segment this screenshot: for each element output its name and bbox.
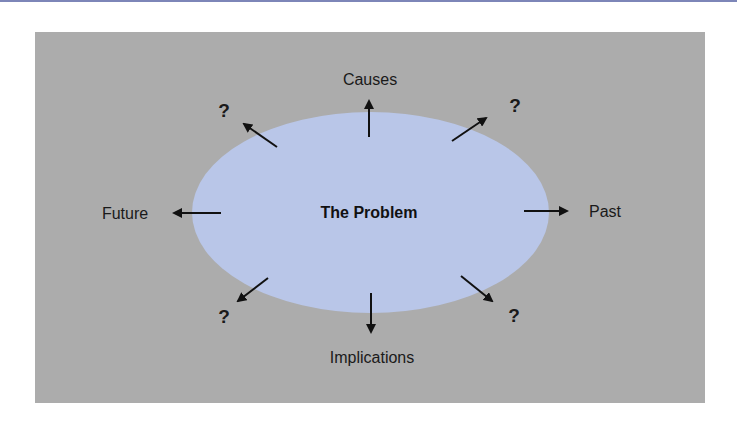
label-unknown-bottom-right: ? (508, 306, 520, 325)
label-future: Future (102, 206, 148, 222)
label-unknown-bottom-left: ? (218, 307, 230, 326)
label-past: Past (589, 204, 621, 220)
label-implications: Implications (330, 350, 414, 366)
label-unknown-top-right: ? (509, 96, 521, 115)
center-label: The Problem (321, 205, 418, 221)
label-causes: Causes (343, 72, 397, 88)
label-unknown-top-left: ? (218, 101, 230, 120)
